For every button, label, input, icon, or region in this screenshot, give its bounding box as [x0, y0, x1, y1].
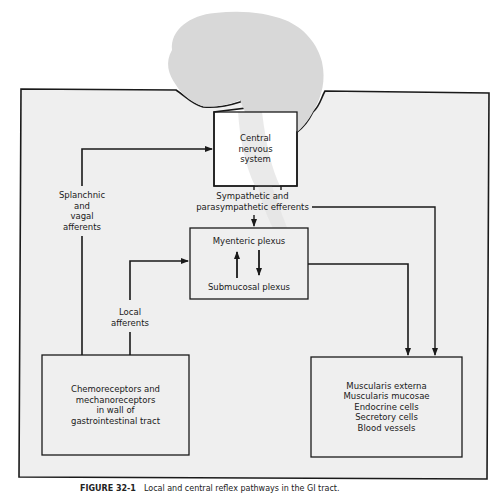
- splanchnic-afferents-label: Splanchnic and vagal afferents: [42, 190, 122, 232]
- figure-caption-text: Local and central reflex pathways in the…: [144, 484, 340, 493]
- figure-number: FIGURE 32-1: [80, 484, 136, 493]
- effectors-label: Muscularis externa Muscularis mucosae En…: [311, 357, 462, 457]
- myenteric-plexus-label: Myenteric plexus: [190, 236, 308, 247]
- local-afferents-label: Local afferents: [100, 307, 160, 328]
- figure-caption: FIGURE 32-1Local and central reflex path…: [80, 484, 440, 497]
- receptors-label: Chemoreceptors and mechanoreceptors in w…: [42, 355, 189, 455]
- efferents-label: Sympathetic and parasympathetic efferent…: [190, 191, 315, 212]
- cns-label: Central nervous system: [214, 112, 297, 186]
- submucosal-plexus-label: Submucosal plexus: [190, 282, 308, 293]
- diagram-stage: Central nervous system Myenteric plexus …: [0, 0, 504, 497]
